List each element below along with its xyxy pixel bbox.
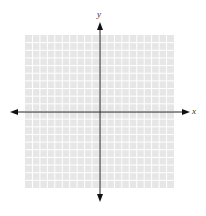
x-axis-label: x (192, 106, 196, 116)
y-axis-down-arrow-icon (97, 194, 103, 202)
coordinate-plane (0, 0, 206, 216)
x-axis-left-arrow-icon (10, 109, 18, 115)
y-axis-label: y (97, 9, 101, 19)
x-axis-right-arrow-icon (182, 109, 190, 115)
y-axis-up-arrow-icon (97, 22, 103, 30)
